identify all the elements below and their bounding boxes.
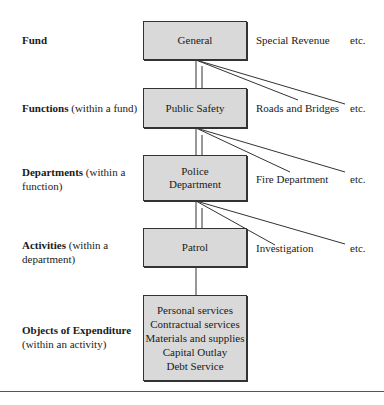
sibling-etc: etc. [350,241,366,255]
node-public-safety: Public Safety [143,88,247,128]
sibling-roads-and-bridges: Roads and Bridges [256,101,339,115]
level-label-fund: Fund [22,33,47,47]
level-label-activities: Activities (within a department) [22,238,132,266]
bottom-divider [0,391,384,392]
node-patrol: Patrol [143,228,247,267]
sibling-fire-department: Fire Department [256,172,328,186]
node-objects-of-expenditure: Personal services Contractual services M… [143,295,247,381]
level-label-functions: Functions (within a fund) [22,101,137,115]
sibling-etc: etc. [350,33,366,47]
node-general: General [143,21,247,60]
sibling-special-revenue: Special Revenue [256,33,330,47]
sibling-etc: etc. [350,172,366,186]
level-label-departments: Departments (within a function) [22,165,132,193]
level-label-objects-of-expenditure: Objects of Expenditure(within an activit… [22,323,131,351]
sibling-etc: etc. [350,101,366,115]
node-police-department: PoliceDepartment [143,155,247,201]
sibling-investigation: Investigation [256,241,313,255]
